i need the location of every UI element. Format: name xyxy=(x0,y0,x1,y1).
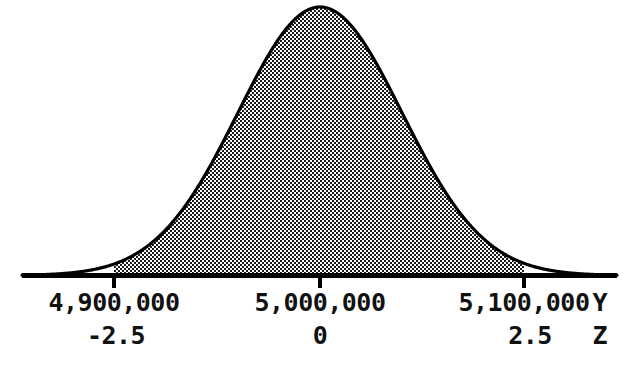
tick-mark-minus-2-5 xyxy=(112,273,116,288)
curve-canvas xyxy=(0,0,641,288)
z-tick-label-center: 0 xyxy=(313,322,328,350)
y-tick-label-left: 4,900,000 xyxy=(49,289,180,317)
distribution-plot xyxy=(0,0,641,288)
z-tick-label-right: 2.5 xyxy=(508,322,552,350)
y-axis-name-label: Y xyxy=(592,289,607,317)
shaded-area-under-curve xyxy=(22,7,617,276)
y-tick-label-right: 5,100,000 xyxy=(459,289,590,317)
tick-mark-zero xyxy=(318,273,322,288)
tick-mark-plus-2-5 xyxy=(522,273,526,288)
normal-distribution-figure: 4,900,000 5,000,000 5,100,000 Y -2.5 0 2… xyxy=(0,0,641,380)
z-axis-name-label: Z xyxy=(592,322,607,350)
z-axis-tick-label-row: -2.5 0 2.5 Z xyxy=(0,322,641,352)
y-tick-label-center: 5,000,000 xyxy=(255,289,386,317)
z-tick-label-left: -2.5 xyxy=(87,322,145,350)
y-axis-tick-label-row: 4,900,000 5,000,000 5,100,000 Y xyxy=(0,289,641,319)
